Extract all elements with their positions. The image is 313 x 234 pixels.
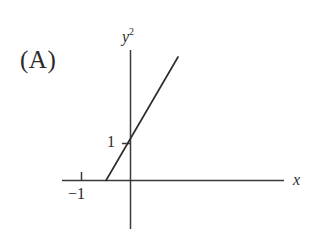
y-axis-label-exponent: 2 — [129, 26, 134, 37]
panel-label: (A) — [20, 47, 56, 72]
plot-canvas — [0, 0, 313, 234]
x-tick-label-neg-one: −1 — [68, 186, 85, 202]
x-axis-label: x — [293, 172, 300, 188]
figure-panel-a: (A) y2 x −1 1 — [0, 0, 313, 234]
data-line-series-1 — [106, 57, 178, 181]
y-tick-label-one: 1 — [107, 134, 115, 150]
y-axis-label: y2 — [122, 28, 134, 45]
